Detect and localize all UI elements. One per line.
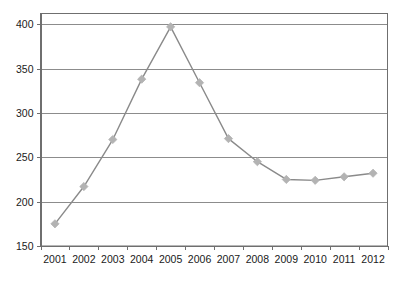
x-tick-label-2003: 2003 bbox=[101, 253, 125, 265]
chart-screenshot: 150200250300350400 200120022003200420052… bbox=[0, 0, 400, 281]
y-tick-label-400: 400 bbox=[16, 18, 34, 30]
chart-canvas: 150200250300350400 200120022003200420052… bbox=[0, 0, 400, 281]
line-chart: 150200250300350400 200120022003200420052… bbox=[0, 0, 400, 281]
y-tick-label-300: 300 bbox=[16, 107, 34, 119]
x-tick-label-2009: 2009 bbox=[275, 253, 299, 265]
x-tick-label-2004: 2004 bbox=[130, 253, 154, 265]
y-tick-label-150: 150 bbox=[16, 240, 34, 252]
y-tick-label-350: 350 bbox=[16, 63, 34, 75]
x-tick-label-2011: 2011 bbox=[333, 253, 356, 265]
x-tick-label-2007: 2007 bbox=[217, 253, 241, 265]
y-tick-label-200: 200 bbox=[16, 196, 34, 208]
x-tick-label-2002: 2002 bbox=[72, 253, 96, 265]
x-tick-label-2012: 2012 bbox=[361, 253, 385, 265]
y-axis-tick-labels: 150200250300350400 bbox=[16, 18, 34, 252]
x-axis-tick-labels: 2001200220032004200520062007200820092010… bbox=[43, 253, 385, 265]
x-tick-label-2001: 2001 bbox=[43, 253, 67, 265]
x-tick-label-2006: 2006 bbox=[188, 253, 212, 265]
plot-background bbox=[41, 14, 388, 247]
x-tick-label-2005: 2005 bbox=[159, 253, 183, 265]
x-tick-label-2008: 2008 bbox=[246, 253, 270, 265]
x-tick-label-2010: 2010 bbox=[304, 253, 328, 265]
x-axis-ticks bbox=[41, 246, 389, 250]
y-tick-label-250: 250 bbox=[16, 151, 34, 163]
